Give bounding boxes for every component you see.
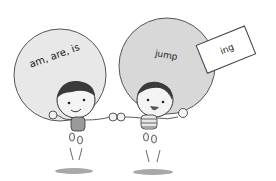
illustration: am, are, is jump ing <box>0 0 276 181</box>
cartoon-drawing <box>0 0 276 181</box>
